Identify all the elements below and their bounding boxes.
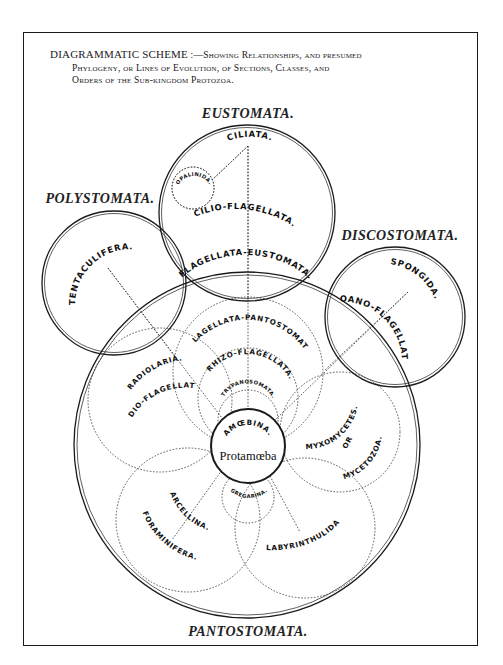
heading-polystomata: POLYSTOMATA.	[45, 191, 154, 206]
svg-text:CILIO-FLAGELLATA.: CILIO-FLAGELLATA.	[192, 201, 299, 229]
svg-text:RHIZO-FLAGELLATA.: RHIZO-FLAGELLATA.	[205, 347, 297, 381]
label-rhizo-flagellata: RHIZO-FLAGELLATA.	[205, 347, 297, 381]
label-labyrinthulida: LABYRINTHULIDA	[266, 517, 341, 552]
line-amoebina-labyrinthulida	[270, 476, 300, 532]
label-spongida: SPONGIDA.	[390, 256, 443, 301]
svg-text:TENTACULIFERA.: TENTACULIFERA.	[67, 241, 134, 305]
label-flagellata-eustomata: FLAGELLATA-EUSTOMATA.	[177, 247, 316, 281]
label-tentaculifera: TENTACULIFERA.	[67, 241, 134, 305]
svg-text:GREGARINA.: GREGARINA.	[230, 487, 269, 499]
heading-pantostomata: PANTOSTOMATA.	[188, 624, 308, 639]
heading-eustomata: EUSTOMATA.	[201, 106, 294, 121]
label-protamoeba: Protamœba	[220, 449, 277, 463]
label-opalinida: OPALINIDA.	[174, 171, 214, 186]
phylogeny-diagram: EUSTOMATA. POLYSTOMATA. DISCOSTOMATA. PA…	[0, 0, 503, 665]
label-gregarina: GREGARINA.	[230, 487, 269, 499]
discostomata-circle	[325, 247, 465, 387]
label-cilio-flagellata: CILIO-FLAGELLATA.	[192, 201, 299, 229]
heading-discostomata: DISCOSTOMATA.	[340, 228, 458, 243]
label-radio-flagellata: RADIO-FLAGELLATA.	[0, 0, 195, 419]
svg-text:SPONGIDA.: SPONGIDA.	[390, 256, 443, 301]
svg-text:LABYRINTHULIDA: LABYRINTHULIDA	[266, 517, 341, 552]
svg-text:CILIATA.: CILIATA.	[225, 129, 274, 143]
svg-text:RADIO-FLAGELLATA.: RADIO-FLAGELLATA.	[0, 0, 195, 419]
svg-text:OPALINIDA.: OPALINIDA.	[174, 171, 214, 186]
label-ciliata: CILIATA.	[225, 129, 274, 143]
svg-text:FLAGELLATA-EUSTOMATA.: FLAGELLATA-EUSTOMATA.	[177, 247, 316, 281]
label-arcellina: ARCELLINA.	[168, 490, 211, 532]
svg-text:ARCELLINA.: ARCELLINA.	[168, 490, 211, 532]
line-spongida-amoebina	[275, 292, 408, 420]
